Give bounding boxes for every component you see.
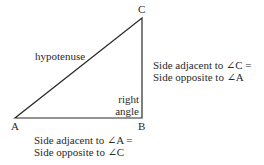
- right-angle-label: right angle: [114, 93, 139, 117]
- side-ab-line2: Side opposite to ∠C: [34, 146, 133, 158]
- side-ab-label: Side adjacent to ∠A = Side opposite to ∠…: [34, 134, 133, 158]
- vertex-label-c: C: [138, 4, 145, 15]
- vertex-label-a: A: [11, 121, 19, 132]
- right-angle-line2: angle: [114, 105, 139, 117]
- side-bc-line1: Side adjacent to ∠C =: [153, 59, 252, 71]
- vertex-label-b: B: [138, 121, 145, 132]
- right-angle-line1: right: [114, 93, 139, 105]
- side-bc-label: Side adjacent to ∠C = Side opposite to ∠…: [153, 59, 252, 83]
- hypotenuse-label: hypotenuse: [35, 50, 85, 62]
- side-bc-line2: Side opposite to ∠A: [153, 71, 252, 83]
- side-ab-line1: Side adjacent to ∠A =: [34, 134, 133, 146]
